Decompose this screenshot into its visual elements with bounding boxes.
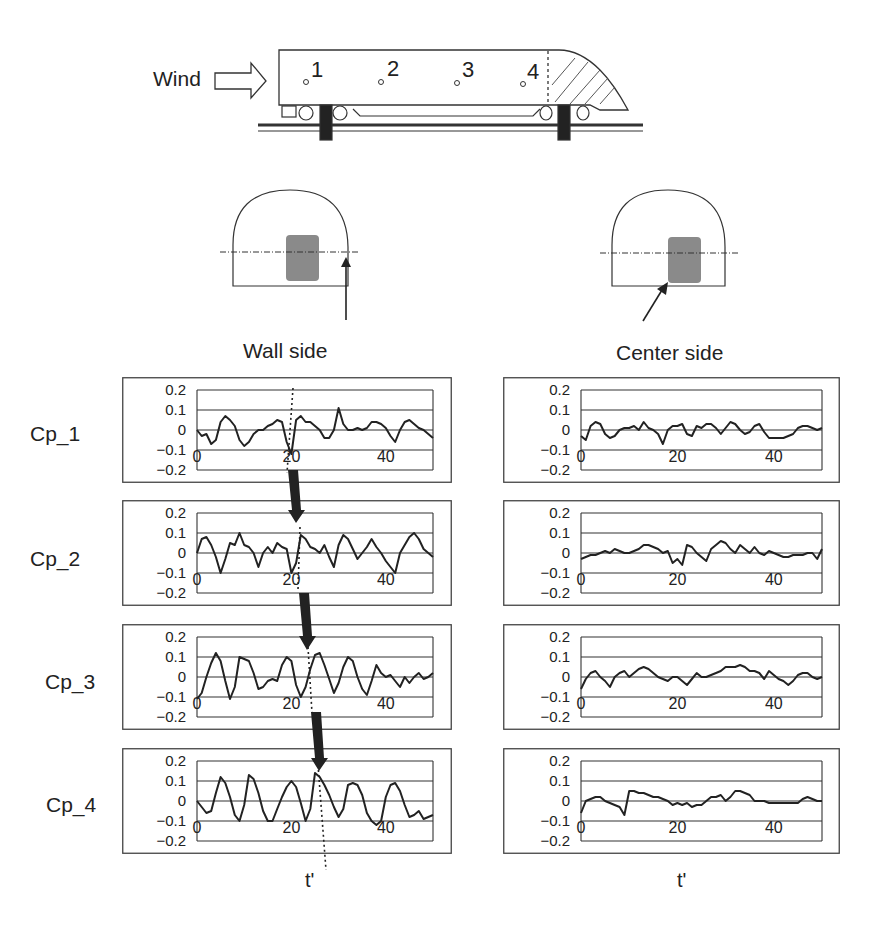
arrow-down-icon-2 bbox=[299, 593, 316, 650]
xlabel-wall: t' bbox=[305, 869, 314, 892]
phase-arrows bbox=[0, 0, 888, 937]
xlabel-center: t' bbox=[677, 869, 686, 892]
arrow-down-icon-1 bbox=[288, 470, 305, 523]
arrow-down-icon-3 bbox=[311, 712, 328, 771]
